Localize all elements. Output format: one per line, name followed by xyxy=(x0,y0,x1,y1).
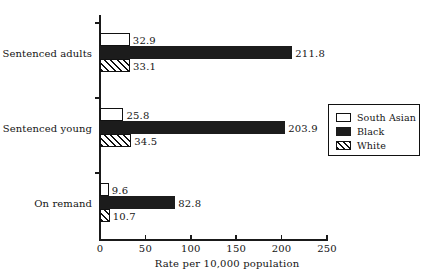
bar-black xyxy=(100,46,292,59)
bar-value-label: 34.5 xyxy=(134,135,157,146)
x-tick xyxy=(235,235,237,240)
legend-item-south-asian: South Asian xyxy=(336,111,419,124)
legend-label-black: Black xyxy=(357,126,384,137)
bar-value-label: 203.9 xyxy=(288,122,318,133)
x-tick-label: 100 xyxy=(181,243,201,254)
x-tick-label: 200 xyxy=(272,243,292,254)
bar-white xyxy=(100,209,110,222)
x-tick-label: 0 xyxy=(97,243,104,254)
bar-white xyxy=(100,59,130,72)
bar-chart: 050100150200250 Sentenced adultsSentence… xyxy=(0,0,426,280)
x-axis-line xyxy=(99,239,328,241)
legend-swatch-south-asian-icon xyxy=(336,113,351,122)
category-label: Sentenced adults xyxy=(3,47,92,58)
legend-swatch-white-icon xyxy=(336,141,351,150)
bar-value-label: 82.8 xyxy=(178,197,201,208)
bar-black xyxy=(100,121,285,134)
x-axis-title-text: Rate per 10,000 population xyxy=(155,258,300,269)
bar-south-asian xyxy=(100,183,109,196)
bar-value-label: 9.6 xyxy=(112,184,129,195)
chart-legend: South Asian Black White xyxy=(328,104,420,156)
legend-swatch-black-icon xyxy=(336,127,351,136)
category-label: On remand xyxy=(34,197,92,208)
bar-value-label: 211.8 xyxy=(295,47,325,58)
bar-south-asian xyxy=(100,108,123,121)
legend-label-south-asian: South Asian xyxy=(357,112,416,123)
legend-item-black: Black xyxy=(336,125,419,138)
x-tick xyxy=(145,235,147,240)
bar-black xyxy=(100,196,175,209)
category-label: Sentenced young xyxy=(3,122,92,133)
y-tick xyxy=(95,97,100,99)
bar-white xyxy=(100,134,131,147)
bar-value-label: 32.9 xyxy=(133,34,156,45)
legend-item-white: White xyxy=(336,139,419,152)
bar-value-label: 33.1 xyxy=(133,60,156,71)
x-tick-label: 250 xyxy=(317,243,337,254)
bar-value-label: 10.7 xyxy=(113,210,136,221)
y-tick xyxy=(95,22,100,24)
x-tick xyxy=(99,235,101,240)
x-axis-title: Rate per 10,000 population xyxy=(0,258,426,269)
x-tick-label: 50 xyxy=(139,243,152,254)
y-tick xyxy=(95,172,100,174)
bar-south-asian xyxy=(100,33,130,46)
x-tick-label: 150 xyxy=(226,243,246,254)
x-tick xyxy=(190,235,192,240)
legend-label-white: White xyxy=(357,140,386,151)
x-tick xyxy=(326,235,328,240)
x-tick xyxy=(281,235,283,240)
bar-value-label: 25.8 xyxy=(126,109,149,120)
